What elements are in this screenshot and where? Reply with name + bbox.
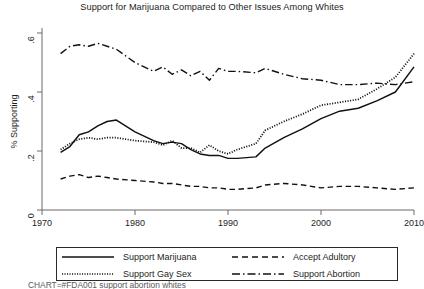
legend-swatch-dashed-icon: [231, 251, 285, 263]
y-tick-label: .4: [26, 95, 36, 103]
series-line-support-marijuana: [61, 67, 414, 158]
footer-caption: CHART=#FDA001 support abortion whites: [28, 281, 186, 289]
y-axis-title: % Supporting: [9, 94, 19, 148]
y-tick-label: .2: [26, 154, 36, 162]
x-tick-label: 1970: [32, 218, 52, 228]
x-axis-tick-labels: 19701980199020002010: [32, 218, 424, 228]
chart-title: Support for Marijuana Compared to Other …: [0, 2, 424, 12]
y-tick-label: .6: [26, 36, 36, 44]
series-line-support-gay-sex: [61, 54, 414, 154]
x-tick-label: 2010: [404, 218, 424, 228]
legend-item-accept-adultory: Accept Adultory: [231, 248, 356, 265]
legend-label-accept-adultory: Accept Adultory: [293, 252, 356, 262]
series-line-support-abortion: [61, 43, 414, 84]
x-tick-label: 1990: [218, 218, 238, 228]
chart-legend: Support Marijuana Support Gay Sex Accept…: [56, 247, 398, 281]
legend-swatch-dashdot-icon: [231, 268, 285, 280]
legend-swatch-dotted-icon: [61, 268, 115, 280]
legend-item-support-abortion: Support Abortion: [231, 265, 360, 282]
legend-item-support-marijuana: Support Marijuana: [61, 248, 197, 265]
legend-item-support-gay-sex: Support Gay Sex: [61, 265, 192, 282]
x-tick-label: 2000: [311, 218, 331, 228]
legend-label-support-abortion: Support Abortion: [293, 269, 360, 279]
legend-column-right: Accept Adultory Support Abortion: [231, 248, 397, 280]
legend-label-support-gay-sex: Support Gay Sex: [123, 269, 192, 279]
plot-area: 0.2.4.6 19701980199020002010 % Supportin…: [0, 14, 424, 246]
legend-label-support-marijuana: Support Marijuana: [123, 252, 197, 262]
chart-figure: Support for Marijuana Compared to Other …: [0, 0, 424, 289]
legend-column-left: Support Marijuana Support Gay Sex: [61, 248, 229, 280]
legend-swatch-solid-icon: [61, 251, 115, 263]
series-line-accept-adultory: [61, 175, 414, 190]
x-tick-label: 1980: [125, 218, 145, 228]
data-series-group: [61, 43, 414, 189]
y-axis-tick-labels: 0.2.4.6: [26, 36, 36, 218]
